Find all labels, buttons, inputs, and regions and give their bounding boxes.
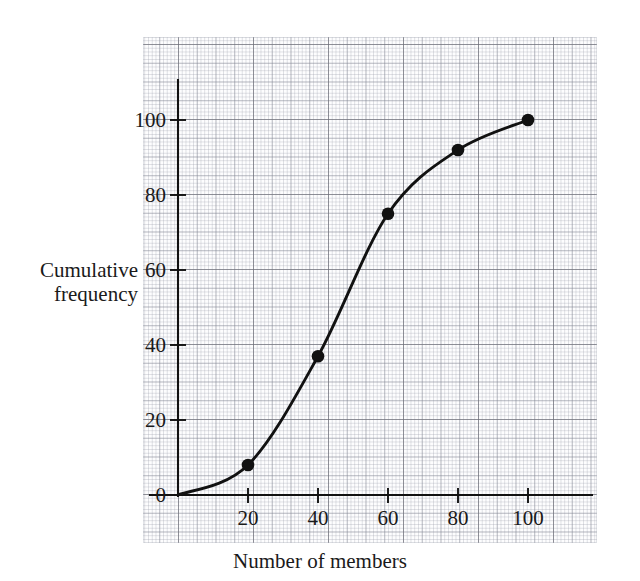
x-tick-label-40: 40 (308, 506, 329, 531)
y-tick-label-20: 20 (104, 408, 166, 433)
y-tick-label-0: 0 (104, 483, 166, 508)
x-tick-label-60: 60 (378, 506, 399, 531)
y-tick-label-40: 40 (104, 333, 166, 358)
y-axis-title: Cumulative frequency (8, 258, 138, 307)
data-point-80-92 (452, 144, 465, 157)
data-point-100-100 (522, 114, 535, 127)
data-point-60-75 (382, 207, 395, 220)
x-tick-label-100: 100 (512, 506, 544, 531)
y-tick-label-100: 100 (104, 108, 166, 133)
x-tick-label-80: 80 (448, 506, 469, 531)
cumulative-frequency-curve (178, 120, 528, 495)
data-point-markers (242, 114, 535, 472)
y-axis-title-line1: Cumulative (40, 258, 138, 282)
data-point-40-37 (312, 350, 325, 363)
x-tick-label-20: 20 (238, 506, 259, 531)
data-point-20-8 (242, 459, 255, 472)
x-axis-title: Number of members (0, 549, 640, 573)
cumulative-frequency-figure: 100 80 60 40 20 0 20 40 60 80 100 Cumula… (0, 0, 640, 581)
axes-group (150, 80, 592, 496)
y-tick-label-80: 80 (104, 183, 166, 208)
y-axis-title-line2: frequency (8, 282, 138, 306)
